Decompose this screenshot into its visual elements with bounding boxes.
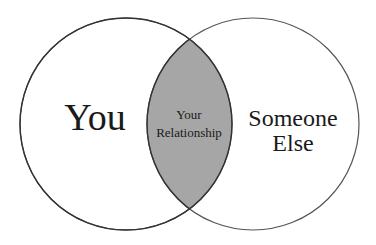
label-relationship-line1: Your [176,107,202,122]
label-someone-line1: Someone [248,105,337,131]
venn-diagram: You Someone Else Your Relationship [0,0,376,245]
label-you: You [64,96,126,138]
label-relationship-line2: Relationship [156,125,222,140]
label-someone-line2: Else [272,130,313,156]
